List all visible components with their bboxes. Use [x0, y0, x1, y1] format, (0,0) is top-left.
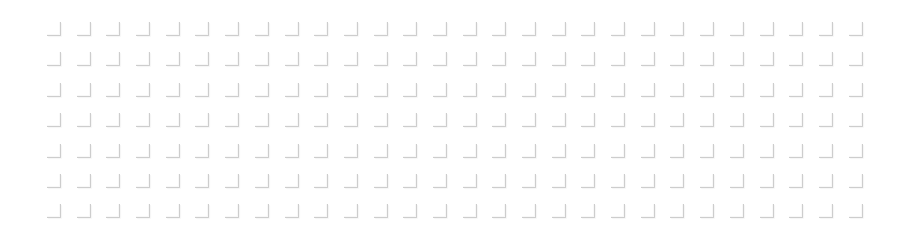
corner-mark-icon	[285, 204, 299, 218]
corner-mark-icon	[106, 52, 120, 66]
corner-mark-icon	[581, 113, 595, 127]
corner-mark-icon	[136, 144, 150, 158]
corner-mark-icon	[195, 113, 209, 127]
corner-mark-icon	[552, 113, 566, 127]
corner-mark-icon	[581, 52, 595, 66]
corner-mark-icon	[285, 22, 299, 36]
page: { "pattern": { "type": "corner-mark-grid…	[0, 0, 907, 228]
corner-mark-icon	[492, 22, 506, 36]
corner-mark-icon	[670, 204, 684, 218]
corner-mark-icon	[552, 144, 566, 158]
corner-mark-icon	[819, 204, 833, 218]
corner-mark-icon	[581, 83, 595, 97]
corner-mark-icon	[106, 113, 120, 127]
corner-mark-icon	[789, 204, 803, 218]
corner-mark-icon	[700, 174, 714, 188]
corner-mark-icon	[789, 83, 803, 97]
corner-mark-icon	[700, 144, 714, 158]
corner-mark-icon	[374, 22, 388, 36]
corner-mark-icon	[195, 174, 209, 188]
corner-mark-icon	[581, 174, 595, 188]
corner-mark-icon	[819, 83, 833, 97]
corner-mark-icon	[374, 113, 388, 127]
corner-mark-icon	[47, 83, 61, 97]
corner-mark-icon	[670, 52, 684, 66]
corner-mark-icon	[106, 204, 120, 218]
corner-mark-icon	[463, 144, 477, 158]
corner-mark-icon	[136, 204, 150, 218]
corner-mark-icon	[522, 144, 536, 158]
corner-mark-icon	[552, 83, 566, 97]
corner-mark-icon	[136, 174, 150, 188]
corner-mark-icon	[344, 144, 358, 158]
corner-mark-icon	[344, 204, 358, 218]
corner-mark-icon	[255, 174, 269, 188]
corner-mark-icon	[136, 52, 150, 66]
corner-mark-icon	[166, 52, 180, 66]
corner-mark-icon	[581, 144, 595, 158]
corner-mark-icon	[344, 52, 358, 66]
corner-mark-icon	[374, 52, 388, 66]
corner-mark-icon	[760, 204, 774, 218]
corner-mark-icon	[47, 52, 61, 66]
corner-mark-icon	[819, 22, 833, 36]
corner-mark-icon	[463, 174, 477, 188]
corner-mark-icon	[47, 22, 61, 36]
corner-mark-icon	[106, 22, 120, 36]
corner-mark-icon	[314, 144, 328, 158]
corner-mark-icon	[225, 174, 239, 188]
corner-mark-icon	[314, 83, 328, 97]
corner-mark-icon	[581, 204, 595, 218]
corner-mark-icon	[285, 144, 299, 158]
corner-mark-icon	[819, 174, 833, 188]
corner-mark-icon	[670, 22, 684, 36]
corner-mark-icon	[552, 22, 566, 36]
corner-mark-icon	[641, 83, 655, 97]
corner-mark-icon	[433, 144, 447, 158]
corner-mark-icon	[700, 113, 714, 127]
corner-mark-icon	[344, 83, 358, 97]
corner-mark-icon	[225, 204, 239, 218]
corner-mark-icon	[433, 83, 447, 97]
corner-mark-icon	[285, 52, 299, 66]
corner-mark-icon	[522, 52, 536, 66]
corner-mark-icon	[522, 113, 536, 127]
corner-mark-icon	[849, 144, 863, 158]
corner-mark-icon	[730, 174, 744, 188]
corner-mark-icon	[760, 83, 774, 97]
corner-mark-icon	[819, 144, 833, 158]
corner-mark-icon	[106, 174, 120, 188]
corner-mark-icon	[670, 174, 684, 188]
corner-mark-icon	[255, 52, 269, 66]
corner-mark-icon	[403, 83, 417, 97]
corner-mark-icon	[581, 22, 595, 36]
corner-mark-icon	[522, 83, 536, 97]
corner-mark-icon	[403, 174, 417, 188]
corner-mark-icon	[611, 22, 625, 36]
corner-mark-icon	[195, 144, 209, 158]
corner-mark-icon	[819, 52, 833, 66]
corner-mark-icon	[463, 52, 477, 66]
corner-mark-icon	[344, 22, 358, 36]
corner-mark-icon	[611, 113, 625, 127]
corner-mark-icon	[611, 204, 625, 218]
corner-mark-icon	[403, 22, 417, 36]
corner-mark-icon	[641, 144, 655, 158]
corner-mark-icon	[106, 83, 120, 97]
corner-mark-icon	[47, 144, 61, 158]
corner-mark-icon	[166, 113, 180, 127]
corner-mark-icon	[47, 204, 61, 218]
corner-mark-icon	[463, 113, 477, 127]
corner-mark-icon	[730, 204, 744, 218]
corner-mark-icon	[492, 113, 506, 127]
corner-mark-icon	[819, 113, 833, 127]
corner-mark-icon	[255, 83, 269, 97]
corner-mark-icon	[77, 174, 91, 188]
corner-mark-icon	[225, 52, 239, 66]
corner-mark-icon	[47, 174, 61, 188]
corner-mark-icon	[77, 144, 91, 158]
corner-mark-icon	[789, 52, 803, 66]
corner-mark-icon	[374, 204, 388, 218]
corner-mark-icon	[641, 22, 655, 36]
corner-mark-icon	[314, 204, 328, 218]
